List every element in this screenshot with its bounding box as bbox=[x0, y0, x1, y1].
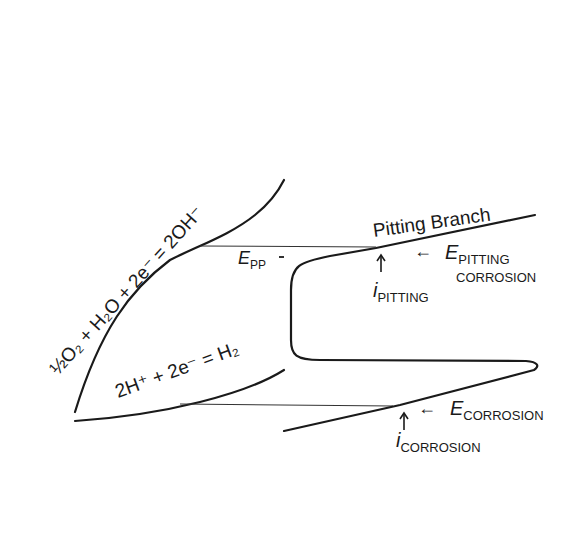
polarization-diagram: ½O₂ + H₂O + 2e⁻ = 2OH⁻ 2H⁺ + 2e⁻ = H₂ EP… bbox=[0, 0, 583, 534]
e-pitting-arrow: ← bbox=[414, 241, 432, 261]
e-pitting-sub2-label: CORROSION bbox=[456, 270, 536, 285]
e-corrosion-label: ECORROSION bbox=[450, 397, 544, 423]
pitting-tie-line bbox=[200, 246, 376, 247]
corrosion-tie-line bbox=[180, 404, 393, 406]
oxygen-reaction-label: ½O₂ + H₂O + 2e⁻ = 2OH⁻ bbox=[45, 202, 207, 379]
epp-label: EPP bbox=[238, 248, 266, 272]
i-pitting-label: iPITTING bbox=[373, 279, 429, 305]
i-corrosion-label: iCORROSION bbox=[396, 429, 481, 455]
e-corrosion-arrow: ← bbox=[418, 398, 436, 418]
e-pitting-label: EPITTING bbox=[445, 241, 510, 267]
anodic-polarization-curve bbox=[284, 215, 537, 431]
hydrogen-reaction-label: 2H⁺ + 2e⁻ = H₂ bbox=[112, 338, 241, 402]
